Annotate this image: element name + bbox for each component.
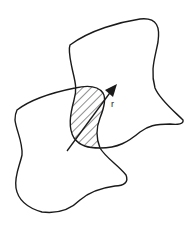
vector-label: r <box>111 99 114 109</box>
overlap-diagram: r <box>0 0 195 226</box>
